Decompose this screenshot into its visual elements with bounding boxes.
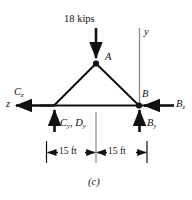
reaction-label-bz: Bz xyxy=(176,99,185,110)
joint-label-a: A xyxy=(105,52,111,63)
figure-caption: (c) xyxy=(88,177,100,188)
reaction-by-subscript: y xyxy=(153,122,156,129)
z-axis-label: z xyxy=(6,99,10,110)
reaction-label-separator: , xyxy=(70,117,73,128)
joint-marker-b xyxy=(136,102,142,108)
reaction-label-by: By xyxy=(147,118,156,129)
truss-member-left xyxy=(54,64,96,106)
load-label: 18 kips xyxy=(64,14,95,25)
dimension-label-right: 15 ft xyxy=(108,147,126,157)
joint-label-b: B xyxy=(142,89,148,100)
y-axis-label: y xyxy=(144,27,149,38)
reaction-label-cz: Cz xyxy=(14,87,24,98)
reaction-cz-subscript: z xyxy=(21,91,24,98)
reaction-dy-symbol: D xyxy=(75,117,83,128)
joint-marker-a xyxy=(93,60,99,66)
reaction-dy-subscript: y xyxy=(83,122,86,129)
dimension-label-left: 15 ft xyxy=(59,147,77,157)
free-body-diagram-figure: 18 kips A y Cz z B Bz Cy, Dy By 15 ft 15… xyxy=(0,0,192,200)
reaction-cy-symbol: C xyxy=(60,117,67,128)
diagram-canvas xyxy=(0,0,192,200)
truss-member-right xyxy=(96,64,139,106)
reaction-bz-subscript: z xyxy=(182,103,185,110)
reaction-cz-symbol: C xyxy=(14,86,21,97)
reaction-label-cy-dy: Cy, Dy xyxy=(60,118,86,129)
